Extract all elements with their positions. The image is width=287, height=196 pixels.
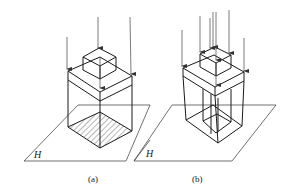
plane-h-label-b: H [145,148,154,159]
caption-b: (b) [192,174,203,184]
prism-b [183,47,244,143]
plane-h-b [134,105,276,161]
projection-diagram: H (a) [0,0,287,196]
panel-a: H (a) [24,17,150,184]
panel-b: H [134,10,276,184]
arrow-a-3 [130,17,131,74]
plane-h-label-a: H [33,149,42,160]
caption-a: (a) [88,174,98,184]
